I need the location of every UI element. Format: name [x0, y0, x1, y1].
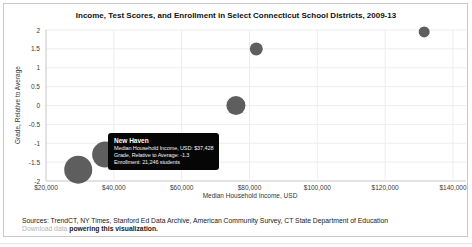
- x-tick-label: $20,000: [24, 184, 68, 191]
- tooltip: New Haven Median Household Income, USD: …: [108, 133, 219, 170]
- y-tick-label: -1: [0, 140, 40, 147]
- download-line-rest: powering this visualization.: [67, 225, 158, 232]
- x-tick-label: $80,000: [228, 184, 272, 191]
- download-line: Download data powering this visualizatio…: [22, 225, 462, 232]
- y-tick-label: 0: [0, 102, 40, 109]
- y-tick-label: 0.5: [0, 83, 40, 90]
- bottom-divider: [0, 243, 472, 244]
- x-tick-label: $60,000: [160, 184, 204, 191]
- y-tick-label: -0.5: [0, 121, 40, 128]
- sources-text: Sources: TrendCT, NY Times, Stanford Ed …: [22, 217, 462, 224]
- district-bubble-4[interactable]: [419, 26, 430, 37]
- district-bubble-3[interactable]: [250, 42, 263, 55]
- download-data-link[interactable]: Download data: [22, 225, 67, 232]
- y-tick-label: 1.5: [0, 45, 40, 52]
- tooltip-title: New Haven: [114, 137, 213, 145]
- district-bubble-0[interactable]: [64, 156, 92, 184]
- x-tick-label: $120,000: [363, 184, 407, 191]
- tooltip-grade-line: Grade, Relative to Average: -1.3: [114, 152, 213, 159]
- x-tick-label: $140,000: [431, 184, 472, 191]
- tooltip-enrollment-line: Enrollment: 21,246 students: [114, 159, 213, 166]
- district-bubble-2[interactable]: [226, 96, 245, 115]
- plot-area: [0, 0, 472, 247]
- y-tick-label: -1.5: [0, 159, 40, 166]
- y-tick-label: 2: [0, 27, 40, 34]
- x-axis-label: Median Household Income, USD: [203, 192, 298, 199]
- y-tick-label: 1: [0, 64, 40, 71]
- x-tick-label: $40,000: [92, 184, 136, 191]
- tooltip-income-line: Median Household Income, USD: $37,428: [114, 145, 213, 152]
- x-tick-label: $100,000: [295, 184, 339, 191]
